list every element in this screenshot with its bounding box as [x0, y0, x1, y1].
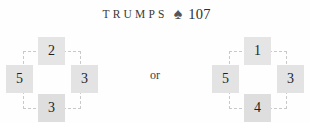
diagram-left: 2 5 3 3: [0, 36, 104, 120]
puzzle-number: 107: [188, 6, 211, 23]
tile-right-diagram-top: 1: [244, 37, 271, 65]
diagram-right: 1 5 3 4: [206, 36, 310, 120]
tile-right-diagram-left: 5: [212, 65, 239, 93]
page-header: TRUMPS ♠ 107: [0, 0, 310, 28]
separator-label: or: [150, 68, 160, 83]
spade-icon: ♠: [174, 6, 183, 22]
tile-right-diagram-bottom: 4: [244, 94, 271, 122]
tile-left-diagram-top: 2: [38, 37, 65, 65]
separator: or: [104, 28, 206, 123]
tile-left-diagram-bottom: 3: [38, 94, 65, 122]
tile-left-diagram-left: 5: [6, 65, 33, 93]
page-title: TRUMPS: [99, 8, 167, 20]
tile-left-diagram-right: 3: [71, 65, 98, 93]
tile-right-diagram-right: 3: [277, 65, 304, 93]
